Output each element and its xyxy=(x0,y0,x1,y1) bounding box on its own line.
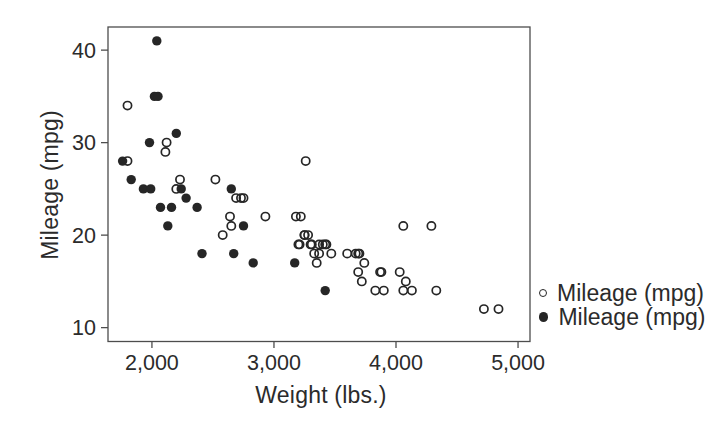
legend: Mileage (mpg) Mileage (mpg) xyxy=(539,281,705,329)
data-point-filled-circle xyxy=(229,249,238,258)
data-point-open-circle xyxy=(161,148,169,156)
data-point-filled-circle xyxy=(249,258,258,267)
data-point-filled-circle xyxy=(197,249,206,258)
filled-circle-icon xyxy=(539,312,548,321)
data-point-open-circle xyxy=(371,287,379,295)
data-point-filled-circle xyxy=(321,286,330,295)
data-point-open-circle xyxy=(432,287,440,295)
data-point-filled-circle xyxy=(118,156,127,165)
legend-label-filled-series: Mileage (mpg) xyxy=(558,304,705,331)
data-point-open-circle xyxy=(219,231,227,239)
data-point-filled-circle xyxy=(156,203,165,212)
data-point-open-circle xyxy=(176,176,184,184)
x-axis-title: Weight (lbs.) xyxy=(255,382,386,409)
data-point-open-circle xyxy=(354,268,362,276)
data-point-open-circle xyxy=(227,222,235,230)
data-point-filled-circle xyxy=(290,258,299,267)
data-point-open-circle xyxy=(427,222,435,230)
x-tick-label: 5,000 xyxy=(491,351,545,375)
data-point-open-circle xyxy=(123,102,131,110)
data-point-open-circle xyxy=(402,277,410,285)
data-point-open-circle xyxy=(211,176,219,184)
data-point-filled-circle xyxy=(167,203,176,212)
legend-item-open-series: Mileage (mpg) xyxy=(539,281,705,305)
data-point-filled-circle xyxy=(163,221,172,230)
data-point-filled-circle xyxy=(152,36,161,45)
legend-item-filled-series: Mileage (mpg) xyxy=(539,305,705,329)
data-point-open-circle xyxy=(261,213,269,221)
data-point-open-circle xyxy=(494,305,502,313)
y-tick-label: 40 xyxy=(72,39,96,63)
x-tick-label: 2,000 xyxy=(125,351,179,375)
data-point-filled-circle xyxy=(153,92,162,101)
data-point-open-circle xyxy=(313,259,321,267)
data-point-filled-circle xyxy=(177,184,186,193)
data-point-filled-circle xyxy=(239,221,248,230)
x-tick-label: 3,000 xyxy=(247,351,301,375)
data-point-filled-circle xyxy=(127,175,136,184)
y-tick-label: 20 xyxy=(72,224,96,248)
y-axis-title: Mileage (mpg) xyxy=(37,110,64,260)
data-point-open-circle xyxy=(360,259,368,267)
plot-area: 2,0003,0004,0005,00010203040 xyxy=(0,0,724,425)
data-point-open-circle xyxy=(343,250,351,258)
data-point-open-circle xyxy=(480,305,488,313)
data-point-filled-circle xyxy=(192,203,201,212)
data-point-filled-circle xyxy=(172,129,181,138)
data-point-open-circle xyxy=(399,222,407,230)
data-point-open-circle xyxy=(408,287,416,295)
data-point-open-circle xyxy=(226,213,234,221)
data-point-filled-circle xyxy=(227,184,236,193)
data-point-open-circle xyxy=(358,277,366,285)
data-point-open-circle xyxy=(302,157,310,165)
plot-frame xyxy=(108,27,530,342)
data-point-filled-circle xyxy=(181,193,190,202)
data-point-open-circle xyxy=(327,250,335,258)
y-tick-label: 30 xyxy=(72,131,96,155)
legend-label-open-series: Mileage (mpg) xyxy=(557,280,704,307)
data-point-open-circle xyxy=(380,287,388,295)
open-circle-icon xyxy=(539,289,547,297)
x-tick-label: 4,000 xyxy=(369,351,423,375)
scatter-plot-figure: 2,0003,0004,0005,00010203040 Mileage (mp… xyxy=(0,0,724,425)
data-point-filled-circle xyxy=(146,184,155,193)
data-point-filled-circle xyxy=(145,138,154,147)
data-point-open-circle xyxy=(163,139,171,147)
data-point-open-circle xyxy=(396,268,404,276)
data-point-open-circle xyxy=(399,287,407,295)
y-tick-label: 10 xyxy=(72,316,96,340)
